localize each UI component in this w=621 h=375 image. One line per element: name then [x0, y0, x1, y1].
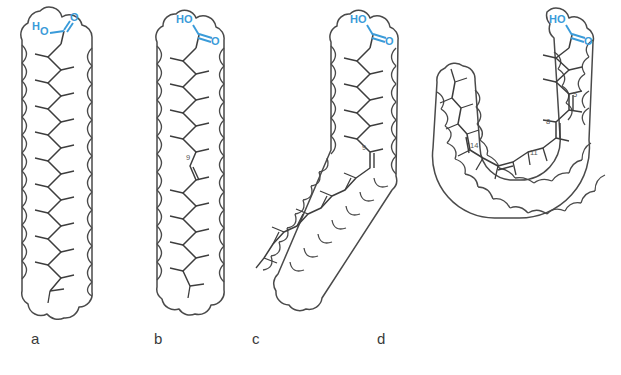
- locant-9-c: 9: [362, 143, 366, 152]
- carbonyl-o-c: O: [385, 35, 394, 47]
- structure-d: 5 8 11 14 HO O: [432, 8, 605, 218]
- carbonyl-o-a: O: [70, 11, 79, 23]
- carbonyl-o-d: O: [584, 35, 593, 47]
- carbonyl-o-b: O: [211, 35, 220, 47]
- fatty-acid-figure: H O O: [0, 0, 621, 375]
- structure-c: 9 HO O: [256, 10, 398, 310]
- locant-5-d: 5: [573, 90, 577, 99]
- space-fill-outline-d: [432, 8, 593, 218]
- locant-9-b: 9: [186, 153, 190, 162]
- panel-caption-c: c: [252, 330, 260, 347]
- carboxyl-ho-b: HO: [176, 13, 193, 25]
- locant-11-d: 11: [530, 148, 538, 157]
- panel-caption-b: b: [154, 330, 163, 347]
- carboxyl-ho-d: HO: [549, 13, 566, 25]
- carboxyl-ho-c: HO: [350, 13, 367, 25]
- panel-caption-d: d: [377, 330, 386, 347]
- locant-8-d: 8: [546, 117, 550, 126]
- locant-14-d: 14: [470, 141, 478, 150]
- space-fill-outline-b: [156, 10, 224, 315]
- structure-a: H O O: [21, 7, 92, 319]
- carboxyl-oh-o-a: O: [40, 25, 49, 37]
- structure-b: 9 HO O: [156, 10, 224, 315]
- panel-caption-a: a: [31, 330, 40, 347]
- carboxyl-h-a: H: [32, 20, 40, 32]
